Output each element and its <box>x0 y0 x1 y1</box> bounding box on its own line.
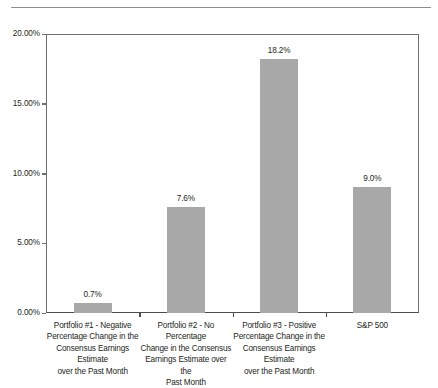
x-axis-category-label-line: Consensus Earnings Estimate <box>46 343 139 366</box>
x-axis-category-label-line: Portfolio #3 - Positive <box>233 320 326 331</box>
x-axis-category-label-line: Portfolio #1 - Negative <box>46 320 139 331</box>
x-axis-category-label: Portfolio #3 - PositivePercentage Change… <box>233 320 326 377</box>
x-axis-category-label-line: Earnings Estimate over the <box>139 354 232 377</box>
y-axis-tick-label: 0.00% <box>17 307 40 318</box>
x-axis-category-label-line: Percentage Change in the <box>46 331 139 342</box>
x-axis-tick-mark <box>139 313 141 317</box>
bar <box>353 187 391 313</box>
y-axis-tick-mark <box>42 173 46 175</box>
x-axis-tick-mark <box>233 313 235 317</box>
y-axis-tick-label: 15.00% <box>13 98 40 109</box>
bar-value-label: 7.6% <box>156 194 216 204</box>
y-axis-tick-label: 10.00% <box>13 168 40 179</box>
x-axis-category-label-line: Percentage Change in the <box>233 331 326 342</box>
x-axis-category-label-line: Consensus Earnings Estimate <box>233 343 326 366</box>
x-axis-category-label-line: over the Past Month <box>233 366 326 377</box>
y-axis-tick-label: 20.00% <box>13 28 40 39</box>
x-axis-category-label: Portfolio #1 - NegativePercentage Change… <box>46 320 139 377</box>
x-axis-category-label: S&P 500 <box>326 320 419 331</box>
header-divider-rule <box>11 7 431 8</box>
x-axis-category-label: Portfolio #2 - No PercentageChange in th… <box>139 320 232 388</box>
y-axis-tick-mark <box>42 34 46 36</box>
bar <box>260 59 298 313</box>
x-axis-category-label-line: Change in the Consensus <box>139 343 232 354</box>
y-axis-tick-mark <box>42 313 46 315</box>
bar-value-label: 9.0% <box>342 174 402 184</box>
x-axis-category-label-line: S&P 500 <box>326 320 419 331</box>
x-axis-category-label-line: Portfolio #2 - No Percentage <box>139 320 232 343</box>
x-axis-category-label-line: Past Month <box>139 377 232 388</box>
bar-value-label: 18.2% <box>249 46 309 56</box>
y-axis-tick-label: 5.00% <box>17 237 40 248</box>
y-axis-tick-mark <box>42 103 46 105</box>
y-axis-tick-mark <box>42 243 46 245</box>
x-axis-tick-mark <box>326 313 328 317</box>
x-axis-category-label-line: over the Past Month <box>46 366 139 377</box>
bar <box>167 207 205 313</box>
bar <box>74 303 112 313</box>
bar-value-label: 0.7% <box>63 290 123 300</box>
